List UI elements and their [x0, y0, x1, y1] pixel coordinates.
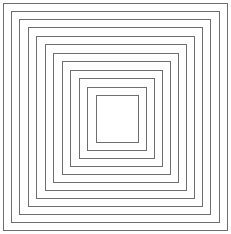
- concentric-squares-canvas: [0, 0, 231, 234]
- concentric-squares-figure: [0, 0, 231, 234]
- figure-background: [0, 0, 231, 234]
